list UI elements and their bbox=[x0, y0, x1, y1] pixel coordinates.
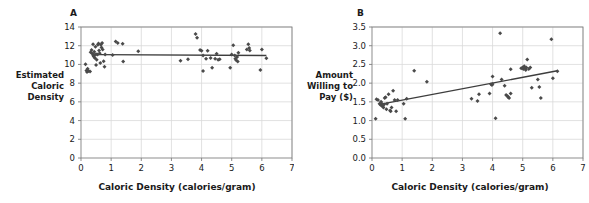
data-point bbox=[178, 59, 182, 63]
data-point bbox=[488, 92, 492, 96]
x-tick-label: 3 bbox=[169, 163, 174, 173]
plot-frame bbox=[81, 27, 292, 158]
data-point bbox=[102, 59, 106, 63]
panel-b-plot: 0.00.51.01.52.02.53.03.501234567 bbox=[295, 0, 589, 203]
data-point bbox=[539, 96, 543, 100]
data-point bbox=[476, 99, 480, 103]
x-tick-label: 0 bbox=[78, 163, 83, 173]
data-point bbox=[477, 92, 481, 96]
data-point bbox=[121, 42, 125, 46]
y-tick-label: 2 bbox=[70, 134, 75, 144]
y-tick-label: 6 bbox=[70, 97, 75, 107]
data-point bbox=[136, 49, 140, 53]
data-point bbox=[387, 92, 391, 96]
data-point bbox=[491, 74, 495, 78]
data-point bbox=[121, 60, 125, 64]
data-point bbox=[195, 36, 199, 40]
data-point bbox=[494, 116, 498, 120]
y-tick-label: 10 bbox=[64, 59, 75, 69]
x-tick-label: 7 bbox=[580, 163, 585, 173]
data-point bbox=[213, 57, 217, 61]
trendline bbox=[98, 55, 267, 56]
data-point bbox=[204, 57, 208, 61]
x-tick-label: 3 bbox=[460, 163, 465, 173]
data-point bbox=[391, 89, 395, 93]
data-point bbox=[537, 85, 541, 89]
data-point bbox=[206, 49, 210, 53]
data-point bbox=[405, 97, 409, 101]
y-tick-label: 3.0 bbox=[352, 41, 366, 51]
panel-a-x-axis-title: Caloric Density (calories/gram) bbox=[60, 182, 294, 192]
x-tick-label: 6 bbox=[259, 163, 264, 173]
figure-root: A Estimated Caloric Density 024681012140… bbox=[0, 0, 589, 203]
data-point bbox=[264, 56, 268, 60]
data-point bbox=[551, 76, 555, 80]
data-point bbox=[525, 58, 529, 62]
x-tick-label: 0 bbox=[369, 163, 374, 173]
y-tick-label: 0.5 bbox=[352, 134, 366, 144]
data-point bbox=[509, 67, 513, 71]
panel-a-plot: 0246810121401234567 bbox=[0, 0, 294, 203]
panel-a: A Estimated Caloric Density 024681012140… bbox=[0, 0, 294, 203]
x-tick-label: 2 bbox=[430, 163, 435, 173]
y-tick-label: 14 bbox=[64, 22, 75, 32]
data-point bbox=[498, 31, 502, 35]
x-tick-label: 1 bbox=[399, 163, 404, 173]
data-point bbox=[374, 117, 378, 121]
y-tick-label: 1.5 bbox=[352, 97, 366, 107]
y-tick-label: 12 bbox=[64, 41, 75, 51]
data-point bbox=[530, 86, 534, 90]
data-point bbox=[260, 47, 264, 51]
data-point bbox=[403, 117, 407, 121]
x-tick-label: 5 bbox=[229, 163, 234, 173]
data-point bbox=[536, 77, 540, 81]
y-tick-label: 3.5 bbox=[352, 22, 366, 32]
y-tick-label: 8 bbox=[70, 78, 75, 88]
data-point bbox=[469, 97, 473, 101]
x-tick-label: 4 bbox=[490, 163, 495, 173]
data-point bbox=[412, 69, 416, 73]
data-point bbox=[103, 65, 107, 69]
data-point bbox=[84, 62, 88, 66]
data-point bbox=[509, 92, 513, 96]
plot-frame bbox=[372, 27, 583, 158]
data-point bbox=[236, 51, 240, 55]
x-tick-label: 1 bbox=[108, 163, 113, 173]
data-point bbox=[394, 109, 398, 113]
y-tick-label: 4 bbox=[70, 116, 75, 126]
panel-b-x-axis-title: Caloric Density (calories/gram) bbox=[353, 182, 587, 192]
data-point bbox=[97, 48, 101, 52]
x-tick-label: 6 bbox=[550, 163, 555, 173]
data-point bbox=[384, 107, 388, 111]
y-tick-label: 0 bbox=[70, 153, 75, 163]
panel-b: B Amount Willing to Pay ($) 0.00.51.01.5… bbox=[295, 0, 589, 203]
x-tick-label: 7 bbox=[289, 163, 294, 173]
y-tick-label: 2.5 bbox=[352, 59, 366, 69]
data-point bbox=[194, 32, 198, 36]
data-point bbox=[186, 57, 190, 61]
data-point bbox=[210, 66, 214, 70]
data-point bbox=[103, 53, 107, 57]
y-tick-label: 0.0 bbox=[352, 153, 366, 163]
x-tick-label: 5 bbox=[520, 163, 525, 173]
y-tick-label: 2.0 bbox=[352, 78, 366, 88]
x-tick-label: 4 bbox=[199, 163, 204, 173]
data-point bbox=[503, 84, 507, 88]
y-tick-label: 1.0 bbox=[352, 116, 366, 126]
data-point bbox=[555, 69, 559, 73]
x-tick-label: 2 bbox=[139, 163, 144, 173]
data-point bbox=[209, 56, 213, 60]
data-point bbox=[94, 63, 98, 67]
